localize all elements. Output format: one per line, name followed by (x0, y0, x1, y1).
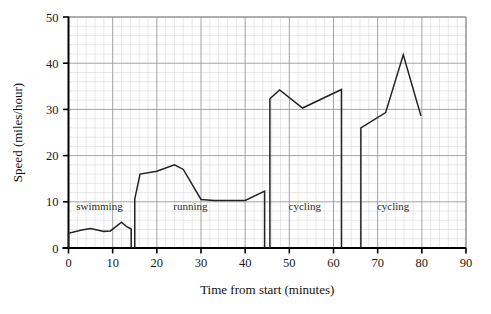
chart-container: 010203040506070809001020304050 swimmingr… (0, 0, 491, 314)
y-tick-label: 30 (46, 103, 59, 117)
x-tick-label: 90 (460, 256, 473, 270)
plot-frame (69, 17, 467, 248)
major-gridlines (69, 17, 467, 248)
y-axis-title: Speed (miles/hour) (10, 83, 25, 182)
y-tick-label: 10 (46, 195, 59, 209)
y-tick-label: 0 (52, 242, 58, 256)
x-tick-label: 40 (239, 256, 252, 270)
series-line-swimming (69, 222, 132, 248)
speed-vs-time-chart: 010203040506070809001020304050 swimmingr… (0, 0, 491, 314)
segment-label-running: running (173, 200, 208, 212)
segment-label-swimming: swimming (76, 200, 123, 212)
x-tick-label: 30 (195, 256, 208, 270)
x-axis-title: Time from start (minutes) (200, 282, 334, 297)
x-tick-label: 70 (371, 256, 384, 270)
minor-gridlines (69, 17, 467, 248)
x-tick-label: 0 (65, 256, 71, 270)
segment-label-cycling: cycling (377, 200, 410, 212)
x-tick-label: 60 (327, 256, 340, 270)
x-tick-label: 20 (151, 256, 164, 270)
series-line-cycling (361, 55, 421, 248)
y-tick-label: 50 (46, 11, 59, 25)
segment-label-cycling: cycling (289, 200, 322, 212)
y-tick-label: 20 (46, 149, 59, 163)
x-tick-label: 50 (283, 256, 296, 270)
x-tick-label: 80 (416, 256, 429, 270)
y-tick-label: 40 (46, 57, 59, 71)
x-tick-label: 10 (106, 256, 119, 270)
